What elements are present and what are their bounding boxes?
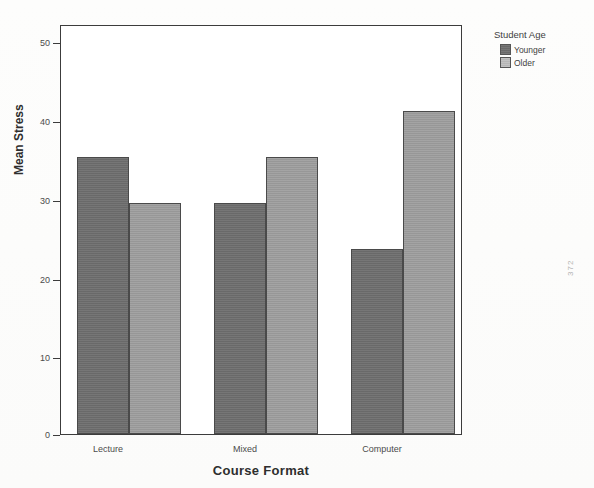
bar-mixed-younger (214, 203, 266, 434)
bar-computer-older (403, 111, 455, 434)
plot-area (61, 26, 461, 434)
legend: Student Age Younger Older (494, 29, 590, 70)
y-tick-label: 50 (40, 37, 50, 49)
bar-computer-younger (351, 249, 403, 434)
legend-item-label: Younger (514, 45, 545, 55)
legend-item-older: Older (500, 57, 590, 68)
bar-chart-figure: 50 40 30 20 10 0 Mean Stress (0, 0, 594, 488)
y-axis-title: Mean Stress (12, 45, 26, 175)
y-tick-mark (53, 435, 60, 437)
bar-mixed-older (266, 157, 318, 434)
y-tick-mark (53, 43, 60, 45)
x-tick-label-mixed: Mixed (205, 444, 285, 454)
y-tick-mark (53, 122, 60, 124)
x-tick-label-computer: Computer (342, 444, 422, 454)
y-axis: 50 40 30 20 10 0 (0, 0, 60, 488)
legend-item-label: Older (514, 58, 535, 68)
bar-lecture-older (129, 203, 181, 434)
bar-lecture-younger (77, 157, 129, 434)
x-axis-title: Course Format (60, 463, 462, 478)
page-margin-mark: 372 (566, 260, 575, 276)
y-tick-label: 20 (40, 274, 50, 286)
y-tick-mark (53, 280, 60, 282)
y-tick-mark (53, 201, 60, 203)
older-swatch-icon (500, 57, 511, 68)
legend-item-younger: Younger (500, 44, 590, 55)
y-tick-mark (53, 358, 60, 360)
younger-swatch-icon (500, 44, 511, 55)
legend-title: Student Age (494, 29, 590, 40)
x-tick-label-lecture: Lecture (68, 444, 148, 454)
y-tick-label: 0 (45, 429, 50, 441)
y-tick-label: 10 (40, 352, 50, 364)
y-tick-label: 40 (40, 116, 50, 128)
plot-frame (60, 25, 462, 435)
y-tick-label: 30 (40, 195, 50, 207)
